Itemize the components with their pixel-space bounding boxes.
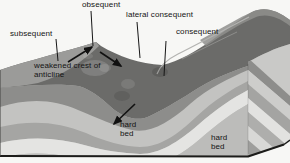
- label-obsequent: obsequent: [82, 0, 120, 9]
- label-consequent: consequent: [176, 27, 218, 36]
- label-weakened-crest-of-anticline: weakened crest of anticline: [34, 61, 122, 79]
- diagram-canvas: [0, 0, 290, 163]
- anticline-block-diagram: obsequent lateral consequent subsequent …: [0, 0, 290, 163]
- label-hard-bed-front: hard bed: [120, 120, 146, 138]
- label-subsequent: subsequent: [10, 29, 52, 38]
- label-hard-bed-side: hard bed: [211, 133, 237, 151]
- label-lateral-consequent: lateral consequent: [126, 10, 193, 19]
